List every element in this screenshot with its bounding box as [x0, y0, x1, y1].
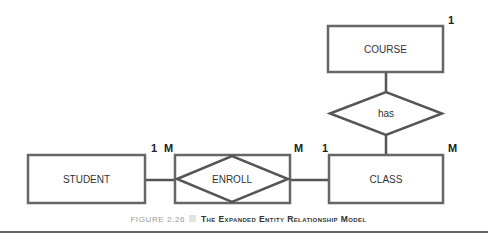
relationship-has-label: has: [378, 108, 394, 119]
cardinality-enroll-m-left: M: [164, 142, 173, 154]
entity-student[interactable]: STUDENT: [28, 155, 145, 203]
relationship-has[interactable]: has: [330, 92, 442, 135]
cardinality-course-1: 1: [448, 14, 454, 26]
entity-student-label: STUDENT: [63, 174, 110, 185]
relationship-enroll[interactable]: ENROLL: [175, 155, 290, 203]
cardinality-enroll-m-right: M: [294, 142, 303, 154]
relationship-enroll-label: ENROLL: [212, 174, 252, 185]
entity-class[interactable]: CLASS: [329, 155, 443, 203]
entity-course-label: COURSE: [364, 44, 407, 55]
entity-course[interactable]: COURSE: [328, 26, 443, 72]
cardinality-class-1: 1: [322, 142, 328, 154]
er-diagram: STUDENT ENROLL CLASS has COURSE 1 M M 1 …: [0, 0, 488, 242]
cardinality-student-1: 1: [151, 142, 157, 154]
entity-class-label: CLASS: [370, 174, 403, 185]
caption-separator-square: [189, 215, 196, 222]
figure-title: The Expanded Entity Relationship Model: [201, 214, 367, 224]
figure-number: FIGURE 2.26: [130, 215, 185, 224]
cardinality-class-m: M: [448, 142, 457, 154]
